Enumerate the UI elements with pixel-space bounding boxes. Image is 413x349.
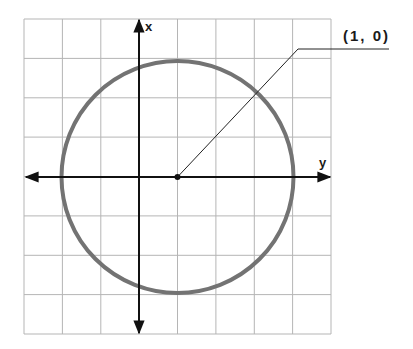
horizontal-axis-label: y — [319, 155, 327, 170]
vertical-axis-label: x — [145, 19, 153, 34]
leader-line — [178, 49, 390, 177]
center-point-label: (1, 0) — [343, 27, 390, 44]
circle-diagram: x y (1, 0) — [0, 0, 413, 349]
